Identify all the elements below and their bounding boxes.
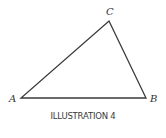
vertex-label-b: B	[149, 93, 157, 104]
figure-caption: ILLUSTRATION 4	[0, 111, 166, 121]
vertex-label-a: A	[8, 93, 16, 104]
triangle-abc	[21, 21, 146, 98]
vertex-label-c: C	[106, 6, 114, 17]
